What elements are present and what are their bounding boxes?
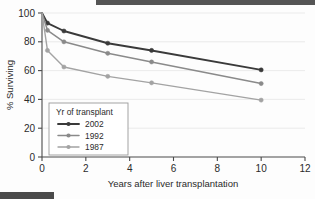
data-point (45, 28, 49, 32)
x-tick-label: 8 (215, 163, 221, 174)
y-tick-label: 40 (24, 94, 36, 105)
legend: Yr of transplant 200219921987 (49, 103, 128, 155)
data-point (149, 81, 153, 85)
legend-label: 1992 (85, 131, 104, 141)
kaplan-meier-chart: 020406080100 024681012 % Surviving Years… (0, 0, 315, 199)
x-tick-label: 4 (127, 163, 133, 174)
x-tick-label: 0 (39, 163, 45, 174)
legend-label: 1987 (85, 142, 104, 152)
data-point (106, 51, 110, 55)
y-tick-label: 80 (24, 36, 36, 47)
legend-label: 2002 (85, 119, 104, 129)
data-point (149, 60, 153, 64)
series-1987 (42, 13, 263, 102)
legend-swatch-marker (66, 122, 70, 126)
y-axis-label: % Surviving (4, 60, 15, 110)
x-tick-label: 10 (256, 163, 268, 174)
x-axis-label: Years after liver transplantation (108, 178, 239, 189)
x-tick-label: 12 (299, 163, 311, 174)
data-point (45, 48, 49, 52)
data-point (259, 81, 263, 85)
data-point (259, 98, 263, 102)
data-point (106, 41, 110, 45)
y-tick-label: 60 (24, 65, 36, 76)
data-point (149, 48, 153, 52)
data-series-group (42, 13, 263, 102)
y-axis-ticks: 020406080100 (18, 8, 42, 163)
y-tick-label: 0 (29, 152, 35, 163)
data-point (106, 74, 110, 78)
data-point (62, 40, 66, 44)
y-tick-label: 20 (24, 123, 36, 134)
series-line (42, 13, 261, 100)
data-point (62, 65, 66, 69)
y-tick-label: 100 (18, 8, 35, 19)
x-tick-label: 6 (171, 163, 177, 174)
legend-title: Yr of transplant (56, 107, 113, 117)
x-tick-label: 2 (83, 163, 89, 174)
data-point (62, 29, 66, 33)
legend-swatch-marker (66, 145, 70, 149)
data-point (259, 68, 263, 72)
legend-swatch-marker (66, 133, 70, 137)
x-axis-ticks: 024681012 (39, 157, 311, 174)
survival-curve-figure: 020406080100 024681012 % Surviving Years… (0, 0, 315, 199)
